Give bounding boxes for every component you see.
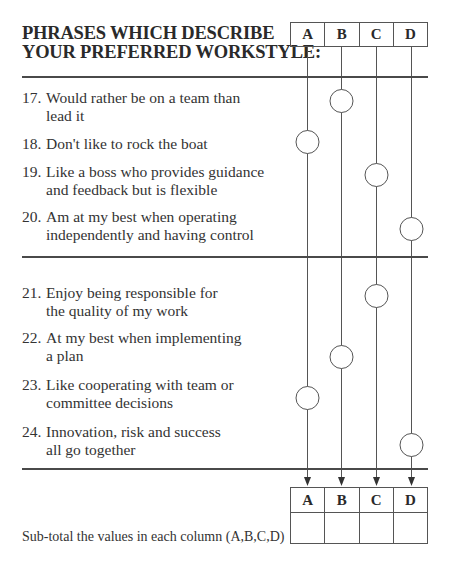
- subtotal-field-d[interactable]: [393, 512, 428, 544]
- column-lines-diagram: [0, 0, 450, 562]
- statement-text: At my best when implementing a plan: [46, 329, 241, 365]
- answer-circle-23-a[interactable]: [296, 387, 319, 410]
- divider-bottom: [22, 468, 428, 470]
- subtotal-input-row: [290, 512, 428, 544]
- answer-circle-22-b[interactable]: [330, 346, 353, 369]
- answer-circle-19-c[interactable]: [365, 164, 388, 187]
- answer-circle-17-b[interactable]: [330, 90, 353, 113]
- statement-text: Don't like to rock the boat: [46, 135, 208, 153]
- divider-top: [22, 76, 428, 78]
- answer-circle-18-a[interactable]: [296, 131, 319, 154]
- statement-text: Like a boss who provides guidance and fe…: [46, 163, 264, 199]
- statement-number: 20.: [22, 208, 41, 226]
- subtotal-header-a: A: [290, 487, 324, 512]
- arrow-down-icon-d: [408, 477, 415, 486]
- subtotal-field-b[interactable]: [324, 512, 358, 544]
- statement-text: Am at my best when operating independent…: [46, 208, 254, 244]
- subtotal-field-a[interactable]: [290, 512, 324, 544]
- answer-circle-24-d[interactable]: [400, 434, 423, 457]
- statement-text: Enjoy being responsible for the quality …: [46, 284, 218, 320]
- subtotal-header-c: C: [359, 487, 393, 512]
- statement-number: 22.: [22, 329, 41, 347]
- statement-text: Innovation, risk and success all go toge…: [46, 423, 221, 459]
- arrow-down-icon-c: [373, 477, 380, 486]
- arrow-down-icon-a: [304, 477, 311, 486]
- statement-text: Would rather be on a team than lead it: [46, 89, 240, 125]
- statement-text: Like cooperating with team or committee …: [46, 376, 234, 412]
- statement-number: 23.: [22, 376, 41, 394]
- subtotal-instruction: Sub-total the values in each column (A,B…: [22, 528, 284, 546]
- statement-number: 19.: [22, 163, 41, 181]
- subtotal-field-c[interactable]: [359, 512, 393, 544]
- statement-number: 18.: [22, 135, 41, 153]
- subtotal-header-d: D: [393, 487, 428, 512]
- statement-number: 17.: [22, 89, 41, 107]
- divider-middle: [22, 256, 428, 258]
- statement-number: 21.: [22, 284, 41, 302]
- statement-number: 24.: [22, 423, 41, 441]
- subtotal-box: A B C D: [290, 487, 428, 544]
- subtotal-header-row: A B C D: [290, 487, 428, 512]
- answer-circle-21-c[interactable]: [365, 285, 388, 308]
- arrow-down-icon-b: [338, 477, 345, 486]
- answer-circle-20-d[interactable]: [400, 218, 423, 241]
- subtotal-header-b: B: [324, 487, 358, 512]
